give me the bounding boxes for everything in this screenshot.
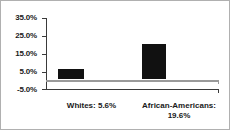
x-axis-end-tick	[218, 89, 219, 93]
x-axis-line	[46, 89, 219, 90]
y-tick-label-2: 15.0%	[0, 50, 37, 58]
zero-line	[46, 80, 219, 82]
category-label-whites: Whites: 5.6%	[49, 101, 134, 111]
y-tick-label-4: -5.0%	[0, 86, 37, 94]
zero-line-end-tick	[218, 80, 219, 84]
y-tick-label-1: 25.0%	[0, 32, 37, 40]
y-tick-label-3: 5.0%	[0, 68, 37, 76]
bar-african-americans	[142, 44, 166, 79]
y-tick-label-0: 35.0%	[0, 14, 37, 22]
bar-chart-figure: 35.0% 25.0% 15.0% 5.0% -5.0% Whites: 5.6…	[0, 0, 230, 130]
bar-whites	[58, 69, 84, 79]
category-label-african-americans: African-Americans: 19.6%	[134, 101, 224, 121]
